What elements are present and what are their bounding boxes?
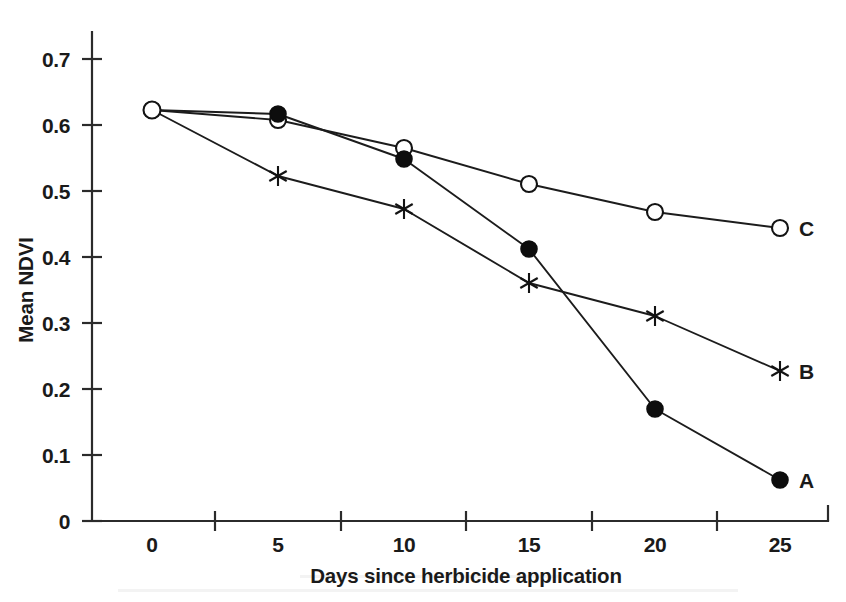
series-b-label: B [799, 360, 814, 383]
y-tick-label: 0.1 [42, 444, 71, 467]
x-tick-label: 25 [769, 533, 792, 556]
x-tick-label: 0 [146, 533, 157, 556]
x-tick-label: 10 [393, 533, 416, 556]
series-a-point [521, 241, 537, 257]
origin-shared-point [144, 102, 161, 119]
y-tick-label: 0 [59, 510, 70, 533]
chart-figure: 0.7 0.6 0.5 0.4 0.3 0.2 0.1 0 0 5 10 15 … [0, 0, 846, 602]
series-a-point [396, 151, 412, 167]
series-a-point [270, 106, 286, 122]
y-tick-label: 0.4 [42, 246, 71, 269]
series-a-point [772, 472, 788, 488]
y-tick-label: 0.6 [42, 114, 70, 137]
series-c-point [647, 204, 663, 220]
y-tick-label: 0.5 [42, 180, 71, 203]
ndvi-line-chart: 0.7 0.6 0.5 0.4 0.3 0.2 0.1 0 0 5 10 15 … [0, 0, 846, 602]
x-tick-label: 15 [518, 533, 541, 556]
y-tick-label: 0.3 [42, 312, 70, 335]
y-axis-title: Mean NDVI [14, 237, 37, 342]
y-tick-label: 0.7 [42, 48, 70, 71]
series-a-point [647, 401, 663, 417]
series-a-label: A [799, 469, 814, 492]
chart-background [0, 0, 846, 602]
y-tick-label: 0.2 [42, 378, 70, 401]
x-tick-label: 20 [644, 533, 667, 556]
series-c-point [521, 176, 537, 192]
series-c-point [772, 220, 788, 236]
x-tick-label: 5 [272, 533, 284, 556]
x-axis-title: Days since herbicide application [310, 564, 621, 587]
series-c-label: C [799, 217, 814, 240]
